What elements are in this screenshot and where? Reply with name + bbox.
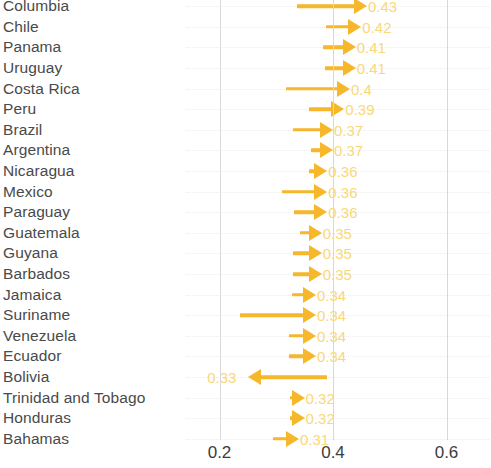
category-label: Bolivia [3,368,49,386]
chart-row: Guyana0.35 [0,243,491,264]
chart-row: Mexico0.36 [0,181,491,202]
arrow-shaft [240,314,304,318]
x-tick-label: 0.2 [208,443,232,463]
arrow-head-icon [292,410,305,426]
plot-area: Columbia0.43Chile0.42Panama0.41Uruguay0.… [0,0,491,440]
category-label: Brazil [3,121,42,139]
category-label: Uruguay [3,59,62,77]
chart-row: Nicaragua0.36 [0,161,491,182]
chart-row: Honduras0.32 [0,408,491,429]
arrow-head-icon [320,142,333,158]
chart-row: Peru0.39 [0,99,491,120]
value-label: 0.42 [362,18,391,35]
arrow-head-icon [343,39,356,55]
value-label: 0.39 [345,101,374,118]
value-label: 0.37 [334,142,363,159]
category-label: Argentina [3,141,70,159]
x-axis: 0.20.40.6 [0,440,491,468]
arrow-head-icon [309,245,322,261]
chart-row: Suriname0.34 [0,305,491,326]
value-label: 0.34 [317,327,346,344]
chart-row: Uruguay0.41 [0,58,491,79]
chart-row: Costa Rica0.4 [0,78,491,99]
category-label: Costa Rica [3,80,80,98]
arrow-shaft [326,25,351,29]
category-label: Honduras [3,409,71,427]
category-label: Columbia [3,0,69,15]
arrow-shaft [323,46,344,50]
category-label: Panama [3,38,61,56]
category-label: Venezuela [3,327,76,345]
chart-row: Paraguay0.36 [0,202,491,223]
value-label: 0.32 [306,389,335,406]
value-label: 0.34 [317,348,346,365]
arrow-head-icon [309,225,322,241]
chart-row: Bolivia0.33 [0,367,491,388]
category-label: Guyana [3,244,58,262]
chart-row: Ecuador0.34 [0,346,491,367]
arrow-head-icon [314,163,327,179]
x-tick-label: 0.6 [435,443,459,463]
chart-row: Columbia0.43 [0,0,491,17]
arrow-shaft [286,87,339,91]
arrow-head-icon [303,287,316,303]
arrow-head-icon [314,204,327,220]
arrow-shaft [259,375,327,379]
arrow-head-icon [348,19,361,35]
horizontal-gridline [186,418,489,419]
value-label: 0.35 [323,245,352,262]
category-label: Barbados [3,265,70,283]
x-tick-label: 0.4 [321,443,345,463]
value-label: 0.41 [357,39,386,56]
value-label: 0.33 [207,369,236,386]
vertical-gridline [447,0,448,440]
chart-row: Brazil0.37 [0,120,491,141]
arrow-head-icon [343,60,356,76]
category-label: Guatemala [3,224,80,242]
chart-row: Argentina0.37 [0,140,491,161]
value-label: 0.41 [357,60,386,77]
arrow-head-icon [337,81,350,97]
arrow-head-icon [354,0,367,14]
category-label: Trinidad and Tobago [3,389,145,407]
category-label: Paraguay [3,203,70,221]
value-label: 0.35 [323,224,352,241]
value-label: 0.43 [368,0,397,15]
vertical-gridline [220,0,221,440]
arrow-head-icon [303,307,316,323]
arrow-head-icon [248,369,261,385]
value-label: 0.37 [334,121,363,138]
arrow-head-icon [314,184,327,200]
arrow-shaft [294,211,316,215]
value-label: 0.35 [323,266,352,283]
horizontal-gridline [186,398,489,399]
value-label: 0.34 [317,307,346,324]
chart-row: Venezuela0.34 [0,326,491,347]
arrow-shaft [282,190,316,194]
category-label: Nicaragua [3,162,75,180]
arrow-shaft [309,108,334,112]
value-label: 0.32 [306,410,335,427]
value-label: 0.34 [317,286,346,303]
arrow-head-icon [320,122,333,138]
arrow-head-icon [309,266,322,282]
chart-row: Guatemala0.35 [0,223,491,244]
chart-row: Chile0.42 [0,17,491,38]
category-label: Jamaica [3,286,61,304]
vertical-gridline [333,0,334,440]
arrow-shaft [293,128,322,132]
chart-row: Jamaica0.34 [0,284,491,305]
category-label: Chile [3,18,39,36]
arrow-dot-plot-chart: Columbia0.43Chile0.42Panama0.41Uruguay0.… [0,0,491,468]
category-label: Peru [3,100,36,118]
arrow-head-icon [303,348,316,364]
category-label: Ecuador [3,347,61,365]
arrow-head-icon [292,390,305,406]
category-label: Suriname [3,306,70,324]
arrow-shaft [297,5,356,9]
chart-row: Panama0.41 [0,37,491,58]
category-label: Mexico [3,183,53,201]
chart-row: Trinidad and Tobago0.32 [0,387,491,408]
arrow-head-icon [303,328,316,344]
value-label: 0.4 [351,80,372,97]
